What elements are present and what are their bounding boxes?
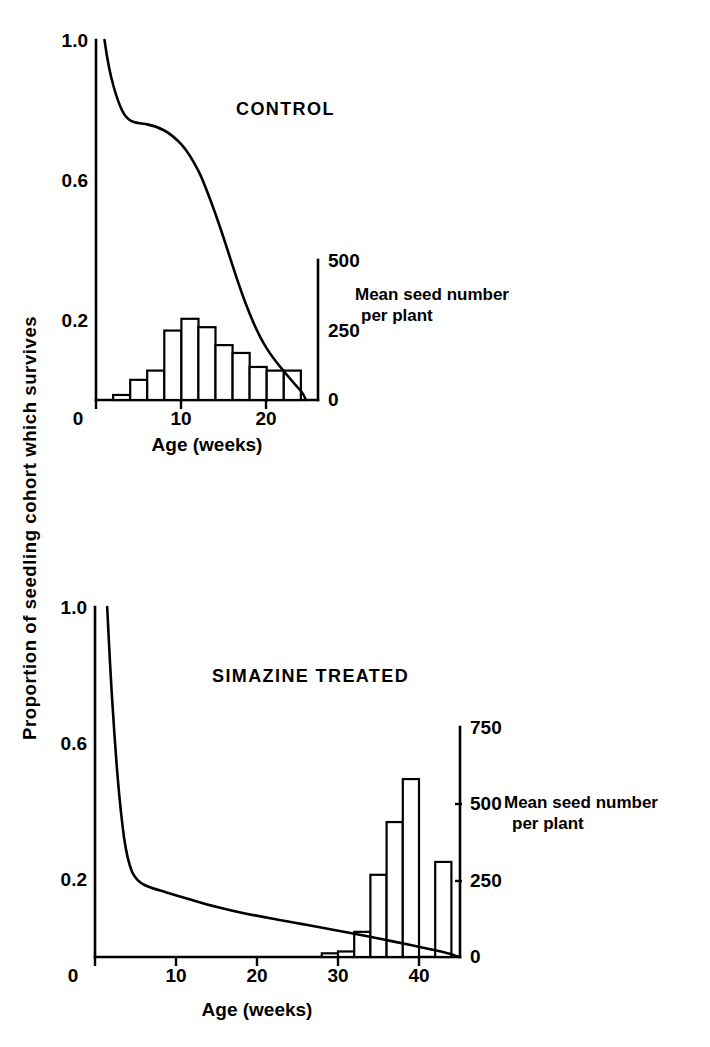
bar (164, 331, 181, 400)
control-panel-title: CONTROL (236, 99, 335, 119)
panel-control: 1.0 0.6 0.2 0 10 20 Age (weeks) 500 250 … (62, 30, 510, 455)
simazine-y-tick-0.2: 0.2 (61, 869, 87, 890)
bar (370, 875, 386, 957)
control-x-tick-label-0: 0 (73, 408, 84, 429)
bar (403, 779, 419, 957)
control-y-tick-0.2: 0.2 (62, 310, 88, 331)
bar (181, 319, 198, 400)
control-x-tick-label-10: 10 (170, 408, 191, 429)
simazine-y-tick-1.0: 1.0 (61, 597, 87, 618)
bar (216, 345, 233, 400)
panel-simazine: 1.0 0.6 0.2 0 10 20 30 40 Age (weeks) 75… (61, 597, 659, 1020)
bar (113, 395, 130, 400)
bar (267, 371, 284, 400)
simazine-right-tick-250: 250 (470, 870, 502, 891)
simazine-right-tick-0: 0 (470, 946, 481, 967)
control-x-tick-label-20: 20 (255, 408, 276, 429)
simazine-right-axis-label-line1: Mean seed number (504, 793, 658, 812)
simazine-x-tick-label-0: 0 (68, 965, 79, 986)
simazine-x-axis-label: Age (weeks) (202, 999, 313, 1020)
simazine-panel-title: SIMAZINE TREATED (212, 666, 409, 686)
control-right-tick-0: 0 (328, 389, 339, 410)
control-y-tick-1.0: 1.0 (62, 30, 88, 51)
bar (387, 822, 403, 957)
control-right-tick-500: 500 (328, 250, 360, 271)
simazine-x-tick-label-10: 10 (165, 965, 186, 986)
figure-survivorship-and-seed-output: Proportion of seedling cohort which surv… (0, 0, 710, 1047)
y-axis-label: Proportion of seedling cohort which surv… (19, 316, 40, 740)
bar (233, 353, 250, 400)
bar (198, 327, 215, 400)
control-right-axis-label-line1: Mean seed number (355, 285, 509, 304)
bar (338, 951, 354, 957)
simazine-x-tick-label-30: 30 (327, 965, 348, 986)
simazine-right-axis-label-line2: per plant (512, 814, 584, 833)
simazine-right-tick-500: 500 (470, 793, 502, 814)
simazine-right-tick-750: 750 (470, 717, 502, 738)
bar (130, 380, 147, 400)
simazine-x-tick-label-20: 20 (246, 965, 267, 986)
bar (322, 953, 338, 957)
control-x-axis-label: Age (weeks) (152, 434, 263, 455)
figure-canvas: Proportion of seedling cohort which surv… (0, 0, 710, 1047)
control-right-tick-250: 250 (328, 320, 360, 341)
bar (435, 862, 451, 957)
bar (250, 367, 267, 400)
simazine-x-tick-label-40: 40 (408, 965, 429, 986)
simazine-y-tick-0.6: 0.6 (61, 733, 87, 754)
control-y-tick-0.6: 0.6 (62, 170, 88, 191)
control-right-axis-label-line2: per plant (361, 306, 433, 325)
bar (147, 371, 164, 400)
